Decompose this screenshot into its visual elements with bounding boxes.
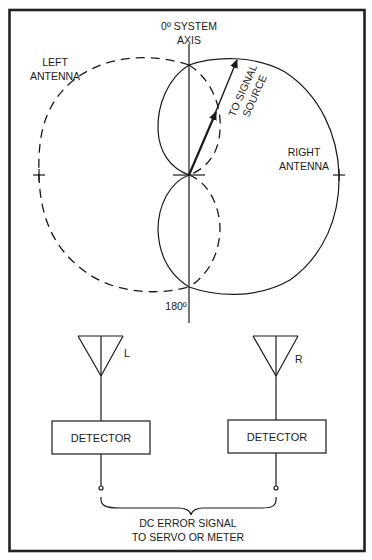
right-antenna-label-line1: RIGHT <box>288 146 321 158</box>
left-antenna-letter: L <box>124 347 130 359</box>
left-antenna-major-lobe <box>39 58 189 292</box>
left-plus-mark <box>33 169 45 181</box>
right-antenna-letter: R <box>295 353 303 365</box>
left-detector-label: DETECTOR <box>71 432 131 444</box>
right-plus-mark <box>333 169 345 181</box>
right-output-terminal <box>274 486 278 490</box>
right-detector-label: DETECTOR <box>247 431 307 443</box>
left-output-terminal <box>99 486 103 490</box>
axis-top-label-line2: AXIS <box>177 34 201 46</box>
right-antenna-label-line2: ANTENNA <box>279 160 329 172</box>
right-antenna-symbol <box>253 336 298 420</box>
left-antenna-symbol <box>78 336 123 421</box>
output-label-line1: DC ERROR SIGNAL <box>139 517 237 529</box>
left-antenna-minor-lobe-upper <box>189 65 220 175</box>
diagram-canvas: 0º SYSTEM AXIS LEFT ANTENNA RIGHT ANTENN… <box>0 0 372 560</box>
signal-source-arrow <box>189 60 237 175</box>
left-antenna-label-line1: LEFT <box>42 56 68 68</box>
output-brace <box>101 497 276 515</box>
output-label-line2: TO SERVO OR METER <box>132 531 245 543</box>
right-antenna-minor-lobe-lower <box>158 175 189 287</box>
right-antenna-major-lobe <box>189 59 339 295</box>
diagram-frame: 0º SYSTEM AXIS LEFT ANTENNA RIGHT ANTENN… <box>0 0 372 560</box>
axis-bottom-label: 180º <box>165 300 187 312</box>
right-antenna-minor-lobe-upper <box>158 65 189 175</box>
left-antenna-label-line2: ANTENNA <box>30 70 80 82</box>
left-antenna-minor-lobe-lower <box>189 175 220 287</box>
axis-top-label-line1: 0º SYSTEM <box>161 20 217 32</box>
